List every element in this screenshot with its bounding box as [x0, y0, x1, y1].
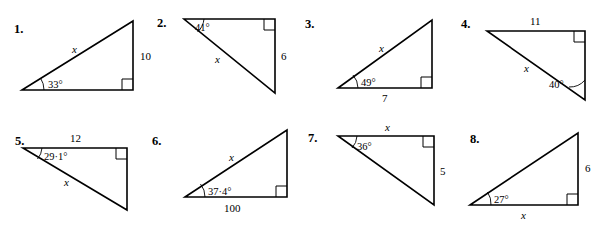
figure-5: 5. 29·1° x 12 — [15, 132, 127, 210]
angle-label-1: 33° — [48, 79, 63, 90]
problem-number-2: 2. — [157, 16, 166, 30]
angle-label-2: 41° — [195, 22, 210, 33]
vertical-side-label-1: 10 — [140, 50, 152, 62]
problem-number-6: 6. — [152, 134, 161, 148]
right-angle-marker-7 — [423, 136, 434, 147]
top-side-label-7: x — [384, 121, 390, 133]
angle-label-4: 40° — [549, 79, 564, 90]
figure-7: 7. 36° x 5 — [308, 121, 446, 205]
angle-label-6: 37·4° — [208, 186, 231, 197]
figure-3: 3. 49° x 7 — [305, 17, 432, 104]
angle-arc-4 — [569, 80, 585, 87]
problem-number-7: 7. — [308, 131, 317, 145]
vertical-side-label-8: 6 — [585, 162, 591, 174]
triangle-outline-3 — [338, 20, 432, 88]
triangle-outline-1 — [22, 21, 133, 90]
base-side-label-6: 100 — [224, 202, 241, 214]
right-angle-marker-6 — [276, 186, 287, 197]
base-side-label-3: 7 — [382, 92, 388, 104]
top-side-label-5: 12 — [70, 132, 81, 144]
figure-6: 6. 37·4° x 100 — [152, 130, 287, 214]
problem-number-8: 8. — [470, 132, 479, 146]
triangle-outline-6 — [185, 130, 287, 197]
figure-8: 8. 27° x 6 — [470, 132, 591, 221]
problem-number-1: 1. — [14, 22, 23, 36]
triangle-outline-4 — [487, 31, 585, 100]
base-side-label-8: x — [520, 209, 526, 221]
hypotenuse-label-5: x — [63, 176, 69, 188]
problem-number-3: 3. — [305, 17, 314, 31]
hypotenuse-label-3: x — [378, 42, 384, 54]
figure-4: 4. 40° x 11 — [461, 15, 585, 100]
problem-number-5: 5. — [15, 134, 24, 148]
angle-label-3: 49° — [361, 77, 376, 88]
angle-label-5: 29·1° — [44, 151, 67, 162]
vertical-side-label-7: 5 — [440, 165, 446, 177]
hypotenuse-label-1: x — [71, 43, 77, 55]
top-side-label-4: 11 — [530, 15, 541, 27]
angle-label-8: 27° — [494, 194, 509, 205]
triangle-outline-8 — [470, 133, 578, 205]
right-angle-marker-5 — [116, 148, 127, 159]
hypotenuse-label-4: x — [523, 62, 529, 74]
angle-arc-8 — [488, 192, 492, 205]
right-angle-marker-4 — [574, 31, 585, 42]
worksheet: 1. 33° x 10 2. 41° x 6 3. 49° x 7 — [0, 0, 602, 228]
right-angle-marker-1 — [122, 79, 133, 90]
triangle-outline-7 — [338, 136, 434, 205]
right-angle-marker-8 — [567, 194, 578, 205]
figures-canvas: 1. 33° x 10 2. 41° x 6 3. 49° x 7 — [0, 0, 602, 228]
hypotenuse-label-2: x — [214, 53, 220, 65]
hypotenuse-label-6: x — [228, 151, 234, 163]
problem-number-4: 4. — [461, 17, 470, 31]
figure-1: 1. 33° x 10 — [14, 21, 152, 90]
angle-label-7: 36° — [357, 141, 372, 152]
figure-2: 2. 41° x 6 — [157, 16, 287, 93]
right-angle-marker-2 — [264, 19, 275, 30]
right-angle-marker-3 — [421, 77, 432, 88]
vertical-side-label-2: 6 — [281, 50, 287, 62]
angle-arc-1 — [41, 78, 45, 90]
